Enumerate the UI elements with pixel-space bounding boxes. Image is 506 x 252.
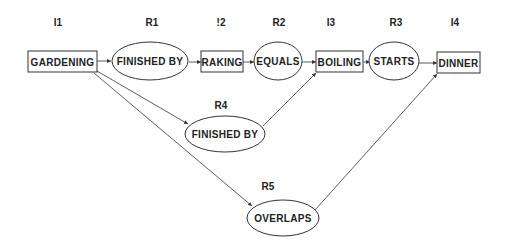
label-i2: !2 (217, 17, 226, 28)
relation-r1-label: FINISHED BY (117, 56, 184, 67)
label-r3: R3 (390, 17, 403, 28)
label-i3: I3 (327, 17, 336, 28)
relation-r4-finished-by: FINISHED BY (185, 116, 265, 152)
label-r5: R5 (262, 181, 275, 192)
relation-r2-label: EQUALS (256, 56, 299, 67)
relation-r3-label: STARTS (373, 56, 414, 67)
relation-r5-label: OVERLAPS (254, 213, 311, 224)
relation-r4-label: FINISHED BY (192, 129, 259, 140)
label-r1: R1 (146, 17, 159, 28)
node-raking: RAKING (201, 51, 243, 72)
label-i1: I1 (54, 17, 63, 28)
label-i4: I4 (451, 17, 460, 28)
relation-r5-overlaps: OVERLAPS (247, 200, 319, 236)
node-boiling: BOILING (316, 51, 363, 72)
node-raking-label: RAKING (201, 57, 242, 68)
node-dinner: DINNER (437, 52, 480, 73)
relation-r3-starts: STARTS (369, 42, 419, 80)
edge-r4-i3 (263, 73, 316, 126)
edge-r5-i4 (315, 74, 437, 210)
label-r2: R2 (273, 17, 286, 28)
node-boiling-label: BOILING (318, 57, 362, 68)
relation-r1-finished-by: FINISHED BY (112, 42, 188, 80)
node-dinner-label: DINNER (438, 58, 479, 69)
interval-diagram: I1 R1 !2 R2 I3 R3 I4 R4 R5 GARDENING RAK… (0, 0, 506, 252)
relation-r2-equals: EQUALS (254, 42, 302, 80)
label-r4: R4 (215, 100, 228, 111)
node-gardening-label: GARDENING (31, 57, 95, 68)
node-gardening: GARDENING (28, 51, 97, 72)
